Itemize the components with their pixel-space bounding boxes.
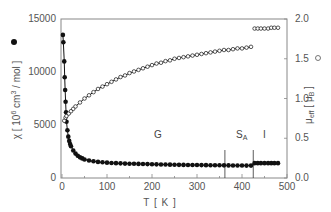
y-right-tick-label: 0.0 — [295, 172, 309, 183]
mu-eff-point — [213, 50, 217, 54]
chi-point — [231, 163, 236, 168]
x-tick-label: 100 — [99, 181, 116, 192]
chi-point — [168, 162, 173, 167]
mu-eff-point — [231, 47, 235, 51]
chi-point — [65, 128, 70, 133]
chi-point — [190, 163, 195, 168]
chi-point — [61, 33, 66, 38]
x-tick-label: 400 — [234, 181, 251, 192]
chi-point — [141, 162, 146, 167]
chi-point — [150, 162, 155, 167]
mu-eff-point — [114, 78, 118, 82]
mu-eff-point — [276, 26, 280, 30]
chi-point — [100, 160, 105, 165]
mu-eff-point — [74, 105, 78, 109]
chi-point — [145, 162, 150, 167]
chi-point — [62, 75, 67, 80]
chi-point — [213, 163, 218, 168]
svg-text:χ [ 106 cm3 / mol ]: χ [ 106 cm3 / mol ] — [10, 60, 22, 139]
mu-eff-point — [101, 85, 105, 89]
y-left-tick-label: 5000 — [34, 119, 57, 130]
mu-eff-point — [204, 51, 208, 55]
mu-eff-point — [92, 90, 96, 94]
mu-eff-point — [177, 56, 181, 60]
chi-point — [177, 163, 182, 168]
x-tick-label: 0 — [59, 181, 65, 192]
mu-eff-point — [173, 57, 177, 61]
mu-eff-point — [218, 49, 222, 53]
chi-curve — [63, 35, 251, 166]
mu-eff-point — [150, 63, 154, 67]
mu-eff-point — [236, 47, 240, 51]
chi-point — [163, 162, 168, 167]
y-right-tick-label: 0.5 — [295, 132, 309, 143]
chi-point — [235, 163, 240, 168]
x-axis-label: T [ K ] — [143, 197, 177, 208]
mu-eff-point — [155, 62, 159, 66]
chi-point — [208, 163, 213, 168]
mu-eff-point — [164, 59, 168, 63]
data-markers — [61, 26, 281, 168]
region-label-g: G — [154, 129, 162, 140]
chi-point — [118, 161, 123, 166]
chi-point — [195, 163, 200, 168]
mu-eff-point — [200, 52, 204, 56]
mu-eff-point — [128, 71, 132, 75]
chi-point — [63, 99, 68, 104]
chi-point — [63, 88, 68, 93]
mu-eff-point — [191, 54, 195, 58]
chi-point — [154, 162, 159, 167]
mu-eff-point — [259, 27, 263, 31]
chi-point — [136, 162, 141, 167]
chi-point — [69, 144, 74, 149]
mu-eff-curve — [64, 47, 251, 121]
chi-point — [240, 163, 245, 168]
y-right-tick-label: 1.5 — [295, 53, 309, 64]
mu-eff-point — [83, 97, 87, 101]
mu-eff-point — [245, 46, 249, 50]
y-left-axis-label: χ [ 106 cm3 / mol ] — [10, 60, 22, 139]
legend-filled-circle-icon — [11, 39, 17, 45]
svg-text:μeff [ μB ]: μeff [ μB ] — [303, 86, 315, 124]
chi-point — [96, 160, 101, 165]
chi-point — [181, 163, 186, 168]
legend-open-circle-icon — [316, 56, 321, 61]
x-tick-label: 500 — [279, 181, 296, 192]
mu-eff-point — [222, 48, 226, 52]
mu-eff-point — [249, 45, 253, 49]
mu-eff-point — [137, 68, 141, 72]
chi-point — [127, 161, 132, 166]
chi-point — [217, 163, 222, 168]
region-label-i: I — [263, 129, 266, 140]
mu-eff-point — [146, 65, 150, 69]
y-left-tick-label: 15000 — [28, 13, 56, 24]
chi-point — [66, 134, 71, 139]
mu-eff-point — [168, 59, 172, 63]
chi-point — [199, 163, 204, 168]
chi-point — [82, 157, 87, 162]
chi-point — [186, 163, 191, 168]
y-left-tick-label: 10000 — [28, 66, 56, 77]
mu-eff-point — [182, 55, 186, 59]
mu-eff-point — [119, 75, 123, 79]
chi-point — [109, 161, 114, 166]
mu-eff-point — [159, 61, 163, 65]
region-label-sa: SA — [236, 129, 248, 141]
chi-point — [87, 158, 92, 163]
chi-point — [276, 161, 281, 166]
mu-eff-point — [195, 53, 199, 57]
chi-point — [105, 160, 110, 165]
chi-point — [204, 163, 209, 168]
mu-eff-point — [105, 82, 109, 86]
chi-point — [172, 162, 177, 167]
chi-point — [159, 162, 164, 167]
mu-eff-point — [96, 87, 100, 91]
chi-point — [123, 161, 128, 166]
y-right-tick-label: 2.0 — [295, 13, 309, 24]
chi-point — [222, 163, 227, 168]
mu-eff-point — [78, 101, 82, 105]
y-left-tick-label: 0 — [50, 172, 56, 183]
mu-eff-point — [110, 80, 114, 84]
mu-eff-point — [263, 27, 267, 31]
y-right-axis-label: μeff [ μB ] — [303, 86, 315, 124]
